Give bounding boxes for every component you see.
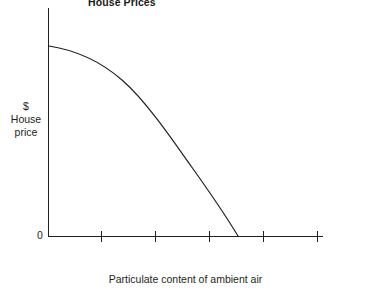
y-axis-label: $ House price — [6, 100, 46, 139]
data-series-curve — [0, 0, 371, 294]
y-axis-label-line-2: House — [6, 113, 46, 126]
x-axis-label: Particulate content of ambient air — [48, 273, 323, 285]
origin-tick-label: 0 — [37, 229, 43, 241]
y-axis-label-line-1: $ — [6, 100, 46, 113]
chart-figure: House Prices $ House price 0 Particulate… — [0, 0, 371, 294]
y-axis-label-line-3: price — [6, 126, 46, 139]
